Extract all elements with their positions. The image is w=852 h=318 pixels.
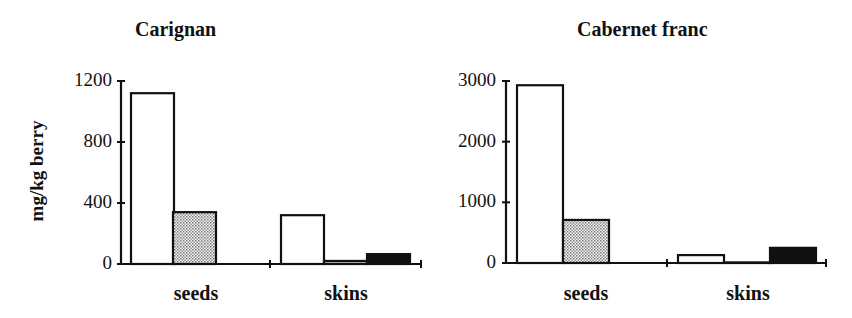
bar	[770, 248, 816, 263]
chart-cabernet-franc	[502, 81, 826, 267]
bar	[131, 93, 174, 264]
bar	[173, 212, 216, 264]
bar	[367, 254, 410, 264]
bar	[678, 255, 724, 263]
bar	[281, 215, 324, 264]
bar	[517, 85, 563, 263]
bar	[563, 220, 609, 263]
chart-canvas	[0, 0, 852, 318]
chart-carignan	[117, 81, 421, 268]
